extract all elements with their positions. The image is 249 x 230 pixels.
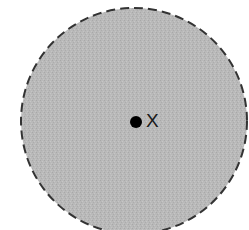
point-x-dot (130, 116, 142, 128)
point-x-label: X (146, 111, 159, 130)
circle-diagram (0, 0, 249, 230)
diagram-canvas: X (0, 0, 249, 230)
